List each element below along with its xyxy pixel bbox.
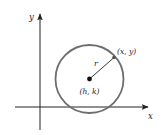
y-axis-label: y [28,12,34,22]
radius-label: r [94,59,99,68]
circle-diagram: y x r (x, y) (h, k) [0,0,163,135]
center-label: (h, k) [80,87,100,96]
center-point [87,77,92,82]
x-axis-label: x [148,111,153,121]
point-label: (x, y) [117,47,136,56]
circle-point [112,56,116,60]
